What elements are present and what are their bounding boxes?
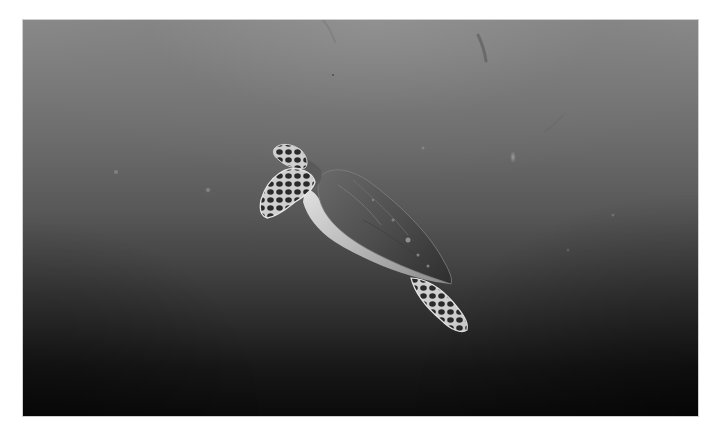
turtle-head <box>273 144 307 168</box>
sea-turtle-illustration <box>23 20 698 416</box>
carapace <box>318 170 452 284</box>
underwater-photo <box>23 20 698 416</box>
page <box>0 0 719 429</box>
rear-flipper <box>411 278 467 332</box>
sea-turtle <box>260 144 467 331</box>
